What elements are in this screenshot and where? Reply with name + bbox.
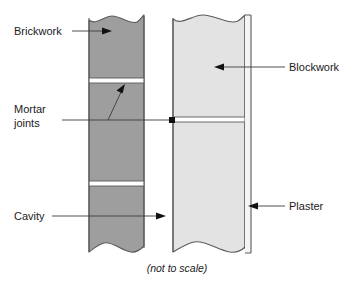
plaster-strip [245,15,251,253]
mortar-block-arrowhead-icon [169,117,175,123]
blockwork-column [173,15,245,252]
cavity-wall-diagram: Brickwork Mortar joints Cavity Blockwork… [0,0,354,286]
label-mortar-joints-line2: joints [13,117,40,129]
diagram-caption: (not to scale) [147,262,208,274]
brickwork-fill [89,15,144,252]
label-plaster: Plaster [289,200,324,212]
mortar-joint-brick-lower [89,181,144,186]
cavity-arrowhead-icon [156,213,166,220]
label-brickwork: Brickwork [14,25,62,37]
label-mortar-joints-line1: Mortar [14,103,46,115]
mortar-joint-block [173,117,245,122]
plaster-leader [248,203,285,210]
diagram-canvas: Brickwork Mortar joints Cavity Blockwork… [0,0,354,286]
plaster-fill [245,15,251,253]
label-blockwork: Blockwork [289,61,340,73]
mortar-joint-brick-upper [89,78,144,83]
brickwork-column [89,15,144,252]
label-cavity: Cavity [14,210,45,222]
blockwork-fill [173,15,245,252]
